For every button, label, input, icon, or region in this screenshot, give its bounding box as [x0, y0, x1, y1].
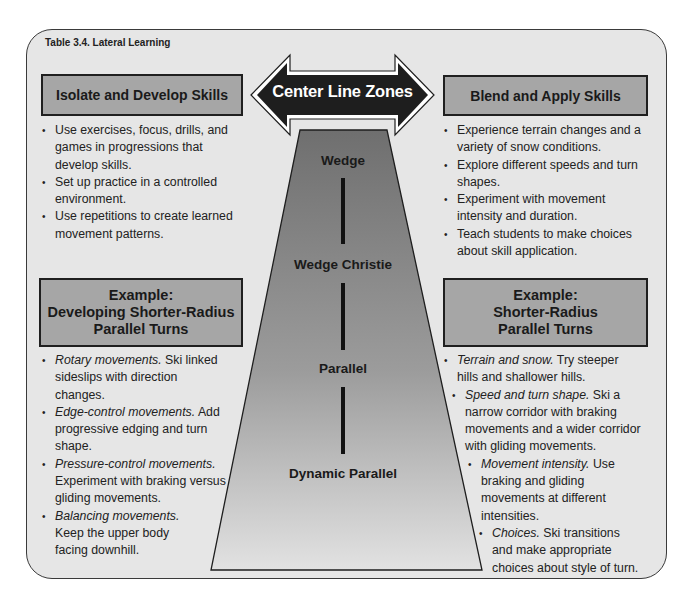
right-example-line2: Shorter-Radius — [493, 304, 598, 321]
right-example-line1: Example: — [513, 287, 577, 304]
list-item: Experience terrain changes and a variety… — [443, 122, 653, 157]
list-item: Teach students to make choices about ski… — [443, 226, 653, 261]
list-item: Edge-control movements. Add progressive … — [41, 404, 226, 456]
zone-dynamic-parallel: Dynamic Parallel — [289, 466, 397, 481]
zone-wedge-christie: Wedge Christie — [294, 257, 392, 272]
list-item: Choices. Ski transitions and make approp… — [478, 525, 643, 577]
list-item: Speed and turn shape. Ski a narrow corri… — [451, 387, 656, 456]
list-item: Terrain and snow. Try steeper hills and … — [443, 352, 643, 387]
right-example-bullet-list: Terrain and snow. Try steeper hills and … — [443, 352, 653, 577]
right-header-box: Blend and Apply Skills — [443, 75, 648, 116]
left-example-line1: Example: — [109, 287, 173, 304]
list-item: Explore different speeds and turn shapes… — [443, 157, 653, 192]
left-header-box: Isolate and Develop Skills — [41, 74, 243, 116]
right-bullet-list: Experience terrain changes and a variety… — [443, 122, 653, 260]
left-example-bullet-list: Rotary movements. Ski linked sideslips w… — [41, 352, 226, 560]
right-header-text: Blend and Apply Skills — [470, 88, 620, 104]
list-item: Use exercises, focus, drills, and games … — [41, 122, 241, 174]
left-example-box: Example: Developing Shorter-Radius Paral… — [39, 278, 243, 347]
list-item: Movement intensity. Use braking and glid… — [467, 456, 647, 525]
list-item: Set up practice in a controlled environm… — [41, 174, 241, 209]
slope-trapezoid — [211, 130, 482, 570]
left-bullet-list: Use exercises, focus, drills, and games … — [41, 122, 241, 243]
list-item: Rotary movements. Ski linked sideslips w… — [41, 352, 226, 404]
right-example-line3: Parallel Turns — [498, 321, 593, 338]
zone-wedge: Wedge — [321, 153, 365, 168]
left-example-line2: Developing Shorter-Radius — [48, 304, 235, 321]
center-line-zones-label: Center Line Zones — [255, 82, 430, 101]
list-item: Balancing movements. Keep the upper body… — [41, 508, 181, 560]
zone-parallel: Parallel — [319, 361, 367, 376]
left-header-text: Isolate and Develop Skills — [56, 87, 228, 103]
right-example-box: Example: Shorter-Radius Parallel Turns — [443, 278, 648, 347]
center-line — [341, 178, 345, 454]
list-item: Experiment with movement intensity and d… — [443, 191, 653, 226]
list-item: Pressure-control movements. Experiment w… — [41, 456, 226, 508]
left-example-line3: Parallel Turns — [94, 321, 189, 338]
list-item: Use repetitions to create learned moveme… — [41, 208, 241, 243]
